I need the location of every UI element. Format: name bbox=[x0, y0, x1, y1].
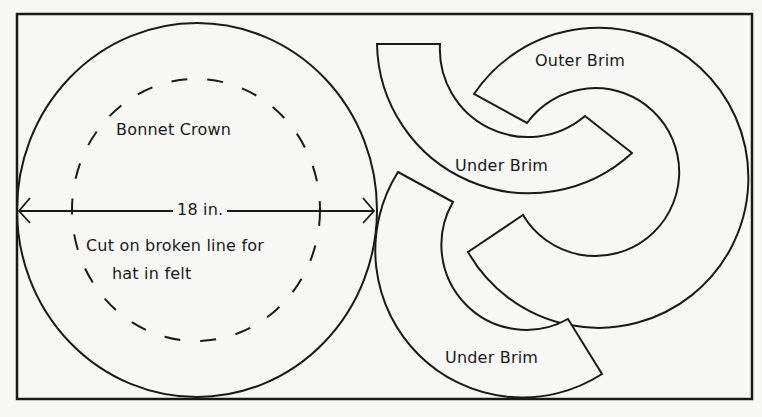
felt-note-line2: hat in felt bbox=[112, 264, 191, 283]
under-brim-lower-label: Under Brim bbox=[445, 348, 538, 367]
bonnet-crown-label: Bonnet Crown bbox=[116, 120, 231, 139]
dimension-label: 18 in. bbox=[173, 200, 227, 219]
pattern-diagram: Bonnet Crown 18 in. Cut on broken line f… bbox=[0, 0, 762, 417]
outer-brim-label: Outer Brim bbox=[535, 51, 625, 70]
felt-note-line1: Cut on broken line for bbox=[86, 236, 264, 255]
under-brim-upper-label: Under Brim bbox=[455, 156, 548, 175]
pattern-drawing bbox=[0, 0, 762, 417]
